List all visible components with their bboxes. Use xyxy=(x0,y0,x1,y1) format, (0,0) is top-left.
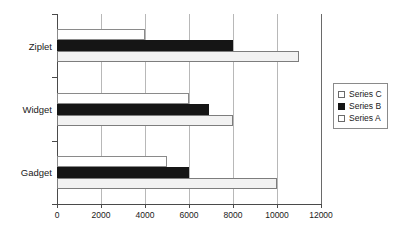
y-tick-mark xyxy=(52,204,57,205)
bar-widget-series-b xyxy=(57,104,209,115)
legend: Series CSeries BSeries A xyxy=(333,83,388,129)
legend-swatch-icon xyxy=(338,103,345,110)
x-tick-label: 12000 xyxy=(309,210,333,220)
x-tick-mark xyxy=(277,204,278,208)
x-tick-label: 10000 xyxy=(265,210,289,220)
bar-gadget-series-a xyxy=(57,178,277,189)
category-label-widget: Widget xyxy=(22,104,52,115)
x-tick-label: 4000 xyxy=(136,210,155,220)
gridline xyxy=(277,14,278,204)
y-tick-mark xyxy=(52,141,57,142)
x-tick-label: 0 xyxy=(55,210,60,220)
bar-widget-series-a xyxy=(57,115,233,126)
plot-area xyxy=(57,14,321,204)
legend-item[interactable]: Series C xyxy=(338,88,382,100)
x-tick-mark xyxy=(101,204,102,208)
x-tick-label: 6000 xyxy=(180,210,199,220)
x-tick-mark xyxy=(233,204,234,208)
category-label-gadget: Gadget xyxy=(21,167,52,178)
y-tick-mark xyxy=(52,77,57,78)
x-tick-mark xyxy=(189,204,190,208)
x-tick-mark xyxy=(57,204,58,208)
legend-item[interactable]: Series B xyxy=(338,100,382,112)
legend-swatch-icon xyxy=(338,91,345,98)
legend-item[interactable]: Series A xyxy=(338,112,382,124)
legend-label: Series A xyxy=(349,114,381,123)
legend-label: Series C xyxy=(349,90,382,99)
legend-swatch-icon xyxy=(338,115,345,122)
plot-right-border xyxy=(321,14,322,204)
x-tick-mark xyxy=(321,204,322,208)
x-tick-label: 8000 xyxy=(224,210,243,220)
bar-ziplet-series-c xyxy=(57,29,145,40)
bar-ziplet-series-a xyxy=(57,51,299,62)
legend-entries: Series CSeries BSeries A xyxy=(338,88,382,124)
bar-gadget-series-b xyxy=(57,167,189,178)
x-tick-mark xyxy=(145,204,146,208)
bar-gadget-series-c xyxy=(57,156,167,167)
bar-ziplet-series-b xyxy=(57,40,233,51)
bar-chart: 020004000600080001000012000 ZipletWidget… xyxy=(0,0,402,241)
legend-label: Series B xyxy=(349,102,381,111)
x-tick-label: 2000 xyxy=(92,210,111,220)
y-tick-mark xyxy=(52,14,57,15)
bar-widget-series-c xyxy=(57,93,189,104)
category-label-ziplet: Ziplet xyxy=(29,40,52,51)
gridline xyxy=(233,14,234,204)
